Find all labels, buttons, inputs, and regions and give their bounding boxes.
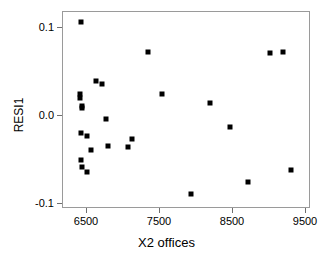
data-point: [78, 158, 83, 163]
plot-area: [62, 11, 310, 208]
x-axis-tick-label: 6500: [74, 216, 98, 227]
data-point: [99, 82, 104, 87]
x-axis-tick-mark: [86, 208, 87, 213]
x-axis-tick-label: 8500: [220, 216, 244, 227]
x-axis-tick-label: 7500: [147, 216, 171, 227]
data-point: [160, 92, 165, 97]
x-axis-label: X2 offices: [0, 236, 333, 249]
data-point: [188, 192, 193, 197]
data-point: [78, 95, 83, 100]
y-axis-tick-mark: [57, 203, 62, 204]
x-axis-tick-mark: [232, 208, 233, 213]
scatter-plot-figure: RESI1 X2 offices 0.10.0-0.16500750085009…: [0, 0, 333, 262]
x-axis-tick-mark: [305, 208, 306, 213]
data-point: [281, 49, 286, 54]
data-point: [207, 100, 212, 105]
data-point: [125, 144, 130, 149]
data-point: [130, 136, 135, 141]
y-axis-label: RESI1: [13, 80, 25, 150]
data-point: [288, 167, 293, 172]
data-point: [79, 106, 84, 111]
y-axis-tick-label: 0.1: [39, 22, 54, 33]
data-point: [268, 50, 273, 55]
y-axis-tick-label: -0.1: [35, 198, 54, 209]
data-point: [93, 78, 98, 83]
y-axis-tick-mark: [57, 115, 62, 116]
data-point: [85, 134, 90, 139]
data-point: [79, 130, 84, 135]
data-point: [78, 19, 83, 24]
x-axis-tick-label: 9500: [293, 216, 317, 227]
data-point: [246, 180, 251, 185]
data-point: [103, 116, 108, 121]
data-point: [89, 148, 94, 153]
data-point: [228, 124, 233, 129]
y-axis-tick-mark: [57, 27, 62, 28]
data-point: [85, 170, 90, 175]
data-point: [145, 49, 150, 54]
x-axis-tick-mark: [159, 208, 160, 213]
y-axis-tick-label: 0.0: [39, 110, 54, 121]
data-point: [106, 143, 111, 148]
data-point: [79, 165, 84, 170]
